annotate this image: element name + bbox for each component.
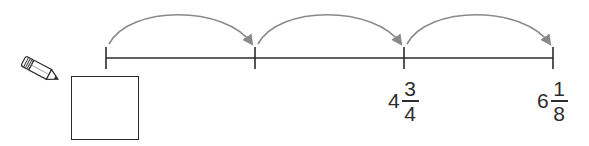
jump-arrow-1 — [109, 15, 252, 44]
answer-box[interactable] — [71, 76, 139, 140]
tick-label-4-3-4: 4 3 4 — [388, 78, 419, 124]
pencil-icon — [21, 56, 61, 84]
number-line-diagram: 4 3 4 6 1 8 — [0, 0, 589, 146]
tick-label-6-1-8: 6 1 8 — [537, 78, 568, 124]
jump-arrow-3 — [407, 15, 550, 44]
label-whole: 4 — [388, 90, 400, 111]
label-fraction: 1 8 — [551, 78, 568, 124]
label-denominator: 8 — [551, 102, 567, 124]
jump-arrow-2 — [258, 15, 401, 44]
label-fraction: 3 4 — [402, 78, 419, 124]
label-numerator: 3 — [402, 78, 418, 100]
label-denominator: 4 — [402, 102, 418, 124]
label-whole: 6 — [537, 90, 549, 111]
label-numerator: 1 — [551, 78, 567, 100]
